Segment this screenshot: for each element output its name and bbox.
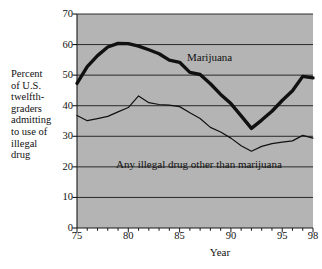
- x-axis-title-text: Year: [210, 246, 230, 258]
- x-axis-tick-label: 80: [123, 231, 134, 242]
- y-axis-tick-label: 20: [63, 162, 74, 173]
- x-axis-title: Year: [0, 246, 322, 258]
- x-axis-tick-label: 75: [72, 231, 83, 242]
- plot-area: [77, 14, 313, 228]
- x-axis-tick-labels: 758085909598: [0, 231, 322, 245]
- y-axis-tick-label: 40: [63, 100, 74, 111]
- y-axis-tick-label: 10: [63, 192, 74, 203]
- y-axis-tick-labels: 010203040506070: [45, 0, 73, 269]
- y-axis-tick-label: 60: [63, 39, 74, 50]
- x-axis-tick-label: 90: [226, 231, 237, 242]
- y-axis-tick-label: 50: [63, 70, 74, 81]
- series-label-other-drugs: Any illegal drug other than marijuana: [116, 158, 282, 170]
- series-label-marijuana: Marijuana: [187, 51, 232, 63]
- x-axis-tick-label: 95: [277, 231, 288, 242]
- x-axis-tick-label: 98: [308, 231, 319, 242]
- x-axis-tick-label: 85: [174, 231, 185, 242]
- chart-figure: Percent of U.S. twelfth- graders admitti…: [0, 0, 322, 269]
- y-axis-tick-label: 70: [63, 9, 74, 20]
- y-axis-tick-label: 30: [63, 131, 74, 142]
